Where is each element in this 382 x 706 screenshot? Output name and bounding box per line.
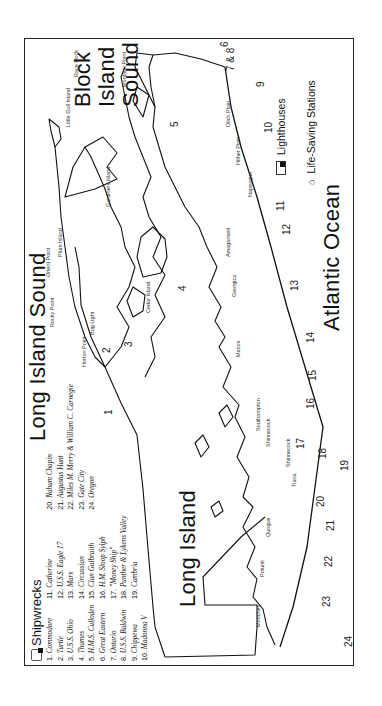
- place-orient-point: Orient Point: [45, 248, 51, 277]
- wreck-13: 13: [289, 280, 300, 291]
- wreck-15: 15: [307, 370, 318, 381]
- wreck-4: 4: [177, 285, 188, 291]
- place-quogue: Quogue: [265, 517, 271, 537]
- wreck-12: 12: [281, 224, 292, 235]
- place-ditch-plain: Ditch Plain: [225, 101, 231, 127]
- lighthouses-key: Lighthouses: [275, 98, 287, 175]
- place-tiana: Tiana: [291, 473, 297, 487]
- place-shinnecock-1: Shinnecock: [265, 419, 271, 447]
- wreck-5: 5: [169, 121, 180, 127]
- legend-column-2: 11. Catherine 12. U.S.S. Eagle 17 13. Ma…: [45, 516, 151, 599]
- place-amagansett: Amagansett: [225, 228, 231, 257]
- wreck-17: 17: [295, 438, 306, 449]
- wreck-1: 1: [103, 409, 114, 415]
- place-shinnecock-2: Shinnecock: [285, 439, 291, 467]
- map-canvas: Block Island Sound Long Island Sound Atl…: [25, 39, 354, 666]
- life-saving-stations-label: Life-Saving Stations: [305, 80, 317, 173]
- place-napeague: Napeague: [247, 172, 253, 197]
- wreck-11: 11: [275, 201, 286, 211]
- legend-title: Shipwrecks: [29, 580, 44, 646]
- wreck-20: 20: [315, 496, 326, 507]
- wreck-7-8: 7 & 8: [225, 48, 236, 71]
- place-georgica: Georgica: [231, 275, 237, 297]
- place-little-gull-island: Little Gull Island: [65, 88, 71, 127]
- lighthouses-label: Lighthouses: [275, 98, 287, 155]
- place-gardiners-island: Gardiners Island: [105, 167, 111, 207]
- place-cedar-island: Cedar Island: [145, 282, 151, 313]
- wreck-23: 23: [321, 596, 332, 607]
- place-plum-island: Plum Island: [57, 228, 63, 257]
- lighthouse-icon: [276, 161, 286, 175]
- place-horton-point: Horton Point: [81, 336, 87, 367]
- wreck-24: 24: [343, 636, 354, 647]
- long-island-label: Long Island: [175, 490, 201, 607]
- shipwreck-icon: [31, 649, 42, 661]
- wreck-10: 10: [263, 122, 274, 133]
- atlantic-ocean-label: Atlantic Ocean: [319, 184, 345, 331]
- place-mecox: Mecox: [235, 341, 241, 357]
- map-frame: Block Island Sound Long Island Sound Atl…: [24, 38, 354, 666]
- place-moriches: Moriches: [255, 605, 261, 627]
- wreck-22: 22: [323, 556, 334, 567]
- wreck-16: 16: [305, 398, 316, 409]
- legend-column-3: 20. Nahum Chapin 21. Augustus Hunt 22. M…: [45, 384, 151, 510]
- wreck-18: 18: [317, 448, 328, 459]
- wreck-19: 19: [339, 460, 350, 471]
- place-race-rock: Race Rock: [73, 50, 79, 77]
- wreck-2: 2: [101, 347, 112, 353]
- place-hither-plain: Hither Plain: [235, 137, 241, 165]
- life-saving-station-icon: ⌂: [306, 180, 316, 185]
- wreck-3: 3: [123, 341, 134, 347]
- block-island-sound-label: Block Island Sound: [71, 42, 143, 107]
- place-potunk: Potunk: [259, 560, 265, 577]
- life-saving-stations-key: ⌂ Life-Saving Stations: [305, 80, 317, 185]
- place-bug-light: Bug Light: [89, 312, 95, 335]
- place-rocky-point: Rocky Point: [49, 298, 55, 327]
- place-montauk-point: Montauk Point: [121, 52, 127, 87]
- wreck-6: 6: [219, 41, 230, 47]
- wreck-9: 9: [255, 81, 266, 87]
- shipwrecks-legend: Shipwrecks 1. Commodore 2. Turtle 3. U.S…: [29, 384, 151, 661]
- wreck-21: 21: [325, 520, 336, 531]
- wreck-14: 14: [305, 332, 316, 343]
- place-southampton: Southampton: [255, 398, 261, 431]
- legend-column-1: 1. Commodore 2. Turtle 3. U.S.S. Ohio 4.…: [45, 605, 151, 661]
